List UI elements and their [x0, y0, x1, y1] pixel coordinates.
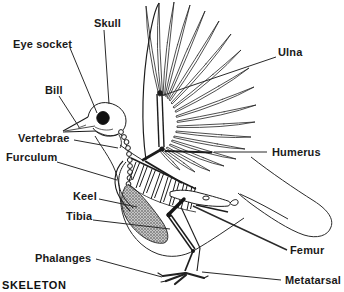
label-tibia: Tibia — [66, 210, 92, 222]
label-vertebrae: Vertebrae — [18, 132, 70, 144]
tibia-bone — [168, 216, 192, 250]
leader-femur — [193, 206, 287, 250]
label-bill: Bill — [45, 84, 63, 96]
bird-skeleton-diagram: Skull Eye socket Bill Vertebrae Furculum… — [0, 0, 344, 292]
label-ulna: Ulna — [278, 46, 302, 58]
leader-metatarsal — [202, 272, 281, 280]
skull-and-bill — [63, 103, 126, 148]
leader-phalanges — [96, 259, 162, 277]
label-humerus: Humerus — [272, 146, 321, 158]
label-skull: Skull — [94, 17, 121, 29]
keel-shading — [122, 185, 168, 243]
eye-socket-shape — [97, 112, 109, 125]
label-furculum: Furculum — [6, 151, 57, 163]
leader-furculum — [57, 162, 117, 180]
leader-eye-socket — [70, 48, 97, 113]
leader-bill — [59, 96, 79, 127]
label-eye-socket: Eye socket — [13, 38, 72, 50]
label-femur: Femur — [290, 244, 324, 256]
leader-skull — [104, 30, 109, 104]
foot-phalanges — [158, 273, 208, 284]
label-keel: Keel — [73, 190, 97, 202]
label-metatarsal: Metatarsal — [285, 274, 341, 286]
label-phalanges: Phalanges — [35, 252, 91, 264]
pygostyle — [230, 200, 238, 206]
leader-vertebrae — [74, 140, 118, 148]
diagram-title: SKELETON — [2, 279, 67, 291]
